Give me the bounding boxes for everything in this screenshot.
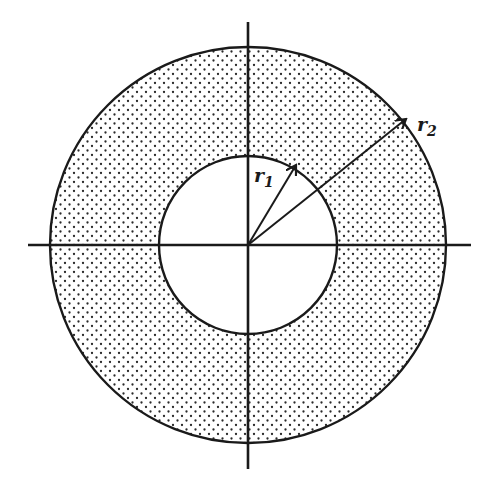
r2-label-sub: 2 bbox=[426, 123, 437, 139]
r1-label-sub: 1 bbox=[264, 174, 274, 190]
annulus-diagram: r1 r2 bbox=[0, 0, 492, 488]
